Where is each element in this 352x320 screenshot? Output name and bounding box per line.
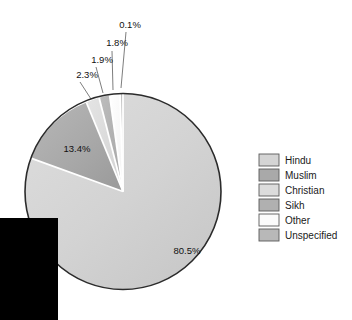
legend-swatch-other — [259, 214, 279, 226]
legend-label-christian: Christian — [285, 185, 324, 196]
pct-label-christian: 2.3% — [76, 69, 98, 80]
leader-line-christian — [80, 82, 91, 99]
pct-label-unspecified: 0.1% — [119, 19, 141, 30]
pct-label-other: 1.8% — [106, 37, 128, 48]
pct-label-sikh: 1.9% — [91, 54, 113, 65]
legend-item-unspecified[interactable]: Unspecified — [259, 229, 337, 241]
pct-label-hindu: 80.5% — [174, 245, 201, 256]
legend-swatch-sikh — [259, 199, 279, 211]
pie-chart-page: 80.5% 13.4% 2.3% 1.9% 1.8% 0.1% Hindu Mu… — [0, 0, 352, 320]
legend-item-muslim[interactable]: Muslim — [259, 169, 317, 181]
legend-label-sikh: Sikh — [285, 200, 304, 211]
legend-label-other: Other — [285, 215, 311, 226]
legend-swatch-hindu — [259, 154, 279, 166]
legend-item-other[interactable]: Other — [259, 214, 311, 226]
legend-label-unspecified: Unspecified — [285, 230, 337, 241]
legend-swatch-christian — [259, 184, 279, 196]
legend-item-hindu[interactable]: Hindu — [259, 154, 311, 166]
legend-swatch-unspecified — [259, 229, 279, 241]
legend: Hindu Muslim Christian Sikh Other Unspec — [259, 154, 337, 241]
legend-item-christian[interactable]: Christian — [259, 184, 324, 196]
pct-label-muslim: 13.4% — [64, 143, 91, 154]
legend-label-muslim: Muslim — [285, 170, 317, 181]
black-occlusion-block — [0, 218, 58, 320]
legend-item-sikh[interactable]: Sikh — [259, 199, 304, 211]
legend-swatch-muslim — [259, 169, 279, 181]
legend-label-hindu: Hindu — [285, 155, 311, 166]
